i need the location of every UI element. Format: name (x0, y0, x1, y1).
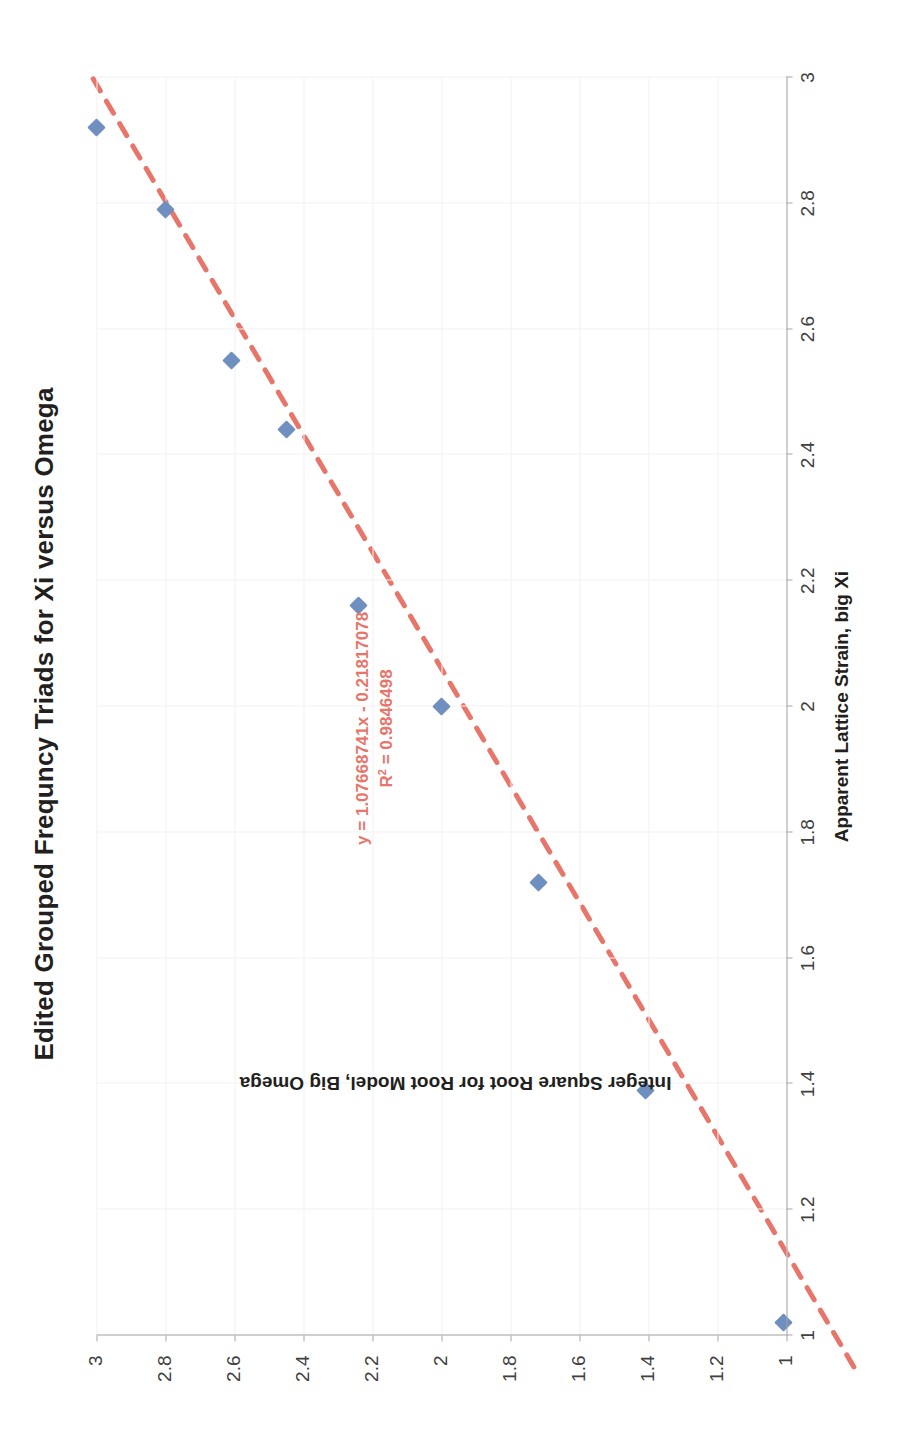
y-axis-tick-label: 1.8 (498, 1355, 520, 1447)
y-axis-tick (648, 1335, 649, 1341)
y-gridline (303, 77, 304, 1335)
trendline-equation-label: y = 1.07668741x - 0.21817078 R2 = 0.9846… (351, 611, 399, 844)
y-gridline (234, 77, 235, 1335)
trendline-r2-text: R2 = 0.9846498 (374, 611, 399, 844)
x-axis-tick (786, 831, 792, 832)
y-gridline (579, 77, 580, 1335)
y-axis-title: Integer Square Root for Root Model, Big … (105, 1071, 805, 1093)
y-gridline (648, 77, 649, 1335)
y-axis-tick (579, 1335, 580, 1341)
x-axis-tick-label: 1.6 (796, 928, 818, 988)
x-axis-tick (786, 76, 792, 77)
y-axis-tick-label: 2 (429, 1355, 451, 1447)
y-axis-tick (234, 1335, 235, 1341)
y-axis-tick-label: 3 (84, 1355, 106, 1447)
y-axis-tick (372, 1335, 373, 1341)
x-axis-tick-label: 2.4 (796, 424, 818, 484)
x-axis-tick-label: 2.8 (796, 173, 818, 233)
x-axis-title: Apparent Lattice Strain, big Xi (830, 77, 852, 1335)
x-axis-tick (786, 328, 792, 329)
y-axis-tick-label: 2.8 (153, 1355, 175, 1447)
plot-area (96, 77, 786, 1335)
y-axis-tick-label: 2.6 (222, 1355, 244, 1447)
x-axis-tick-label: 2.6 (796, 299, 818, 359)
y-axis-tick-label: 1 (774, 1355, 796, 1447)
y-axis-tick (165, 1335, 166, 1341)
x-axis-tick (786, 579, 792, 580)
y-axis-tick (717, 1335, 718, 1341)
x-axis-tick (786, 1208, 792, 1209)
x-axis-tick-label: 1.8 (796, 802, 818, 862)
y-gridline (510, 77, 511, 1335)
y-gridline (717, 77, 718, 1335)
y-axis-tick-label: 2.4 (291, 1355, 313, 1447)
y-gridline (96, 77, 97, 1335)
x-axis-tick (786, 957, 792, 958)
x-axis-tick (786, 453, 792, 454)
x-axis-tick-label: 3 (796, 47, 818, 107)
y-axis-tick (303, 1335, 304, 1341)
x-axis-tick-label: 2 (796, 676, 818, 736)
trendline-equation-text: y = 1.07668741x - 0.21817078 (351, 611, 374, 844)
x-axis-tick-label: 1 (796, 1305, 818, 1365)
chart: Edited Grouped Frequncy Triads for Xi ve… (0, 0, 913, 1447)
y-axis-tick-label: 2.2 (360, 1355, 382, 1447)
x-axis-tick-label: 2.2 (796, 550, 818, 610)
x-axis-tick-label: 1.4 (796, 1053, 818, 1113)
y-axis-title-wrapper: Integer Square Root for Root Model, Big … (105, 1065, 805, 1093)
y-gridline (165, 77, 166, 1335)
x-axis-tick-label: 1.2 (796, 1179, 818, 1239)
chart-title: Edited Grouped Frequncy Triads for Xi ve… (28, 0, 59, 1447)
y-axis-tick-label: 1.2 (705, 1355, 727, 1447)
y-axis-tick-label: 1.6 (567, 1355, 589, 1447)
r2-value: = 0.9846498 (377, 669, 396, 769)
y-axis-tick-label: 1.4 (636, 1355, 658, 1447)
y-axis-tick (510, 1335, 511, 1341)
x-axis-tick (786, 1082, 792, 1083)
y-axis-tick (786, 1335, 787, 1341)
trendline (92, 77, 853, 1366)
y-axis-tick (96, 1335, 97, 1341)
x-axis-tick (786, 705, 792, 706)
x-axis-tick (786, 202, 792, 203)
y-axis-tick (441, 1335, 442, 1341)
r2-prefix: R (377, 775, 396, 787)
rotated-page-wrapper: Edited Grouped Frequncy Triads for Xi ve… (0, 0, 913, 1447)
